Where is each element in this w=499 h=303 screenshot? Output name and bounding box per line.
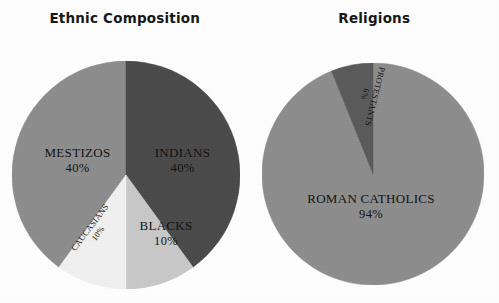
pie-chart-religions	[262, 63, 484, 285]
page-title-ethnic-composition: Ethnic Composition	[0, 10, 250, 26]
page-title-religions: Religions	[250, 10, 499, 26]
panel-religions: Religions ROMAN CATHOLICS 94% PROTESTANT…	[250, 0, 499, 303]
pie-chart-ethnic-composition	[12, 61, 240, 289]
panel-ethnic-composition: Ethnic Composition MESTIZOS 40% INDIANS …	[0, 0, 250, 303]
pie-chart-figure: Ethnic Composition MESTIZOS 40% INDIANS …	[0, 0, 499, 303]
